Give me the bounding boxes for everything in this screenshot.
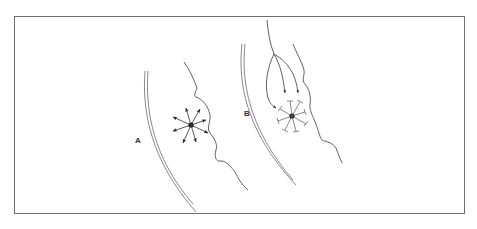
panel-b-source-line bbox=[267, 20, 274, 54]
panel-b-label: B bbox=[244, 110, 250, 118]
panel-a-wall bbox=[144, 71, 196, 212]
panel-a-label: A bbox=[135, 137, 141, 145]
panel-b bbox=[241, 20, 342, 185]
panel-a-outward-arrows bbox=[173, 108, 208, 143]
panel-b-boundary bbox=[293, 44, 342, 163]
panel-b-blocked-spokes bbox=[277, 100, 308, 132]
panel-a bbox=[144, 62, 248, 212]
diagram-canvas bbox=[0, 0, 477, 229]
panel-b-feeder-lines bbox=[266, 54, 298, 108]
